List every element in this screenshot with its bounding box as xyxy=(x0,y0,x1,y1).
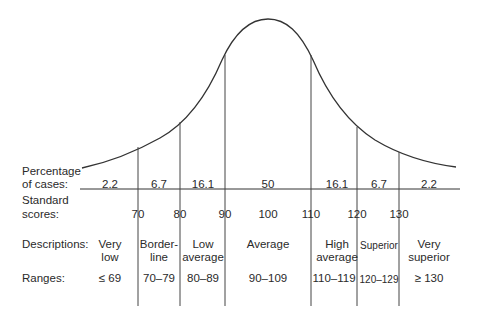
description-line1: Very xyxy=(98,238,121,251)
percentage-value: 50 xyxy=(262,178,275,191)
label-descriptions: Descriptions: xyxy=(22,238,88,251)
description-line2: superior xyxy=(408,251,450,264)
description-line2: low xyxy=(101,251,118,264)
score-value: 120 xyxy=(347,208,366,221)
normal-distribution-diagram xyxy=(0,0,477,324)
label-ranges: Ranges: xyxy=(22,272,65,285)
label-standard-line1: Standard xyxy=(22,194,69,207)
range-value: 120–129 xyxy=(360,273,399,286)
range-value: 110–119 xyxy=(312,272,355,285)
description-line1: Border- xyxy=(140,238,178,251)
score-value: 90 xyxy=(219,208,232,221)
label-standard-line2: scores: xyxy=(22,208,59,221)
percentage-value: 6.7 xyxy=(371,178,387,191)
description-line2: average xyxy=(316,251,358,264)
range-value: ≤ 69 xyxy=(99,272,121,285)
description-line1: Average xyxy=(247,238,290,251)
description-line2: line xyxy=(150,251,168,264)
bell-curve xyxy=(82,19,456,168)
label-percentage-line1: Percentage xyxy=(22,165,81,178)
description-line2: average xyxy=(182,251,224,264)
score-value: 110 xyxy=(302,208,320,221)
score-value: 100 xyxy=(258,208,277,221)
range-value: 90–109 xyxy=(249,272,287,285)
description-line1: High xyxy=(325,238,349,251)
description-line1: Very xyxy=(417,238,440,251)
range-value: 80–89 xyxy=(187,272,219,285)
score-value: 70 xyxy=(132,208,145,221)
description-line1: Low xyxy=(192,238,213,251)
percentage-value: 2.2 xyxy=(421,178,437,191)
label-percentage-line2: of cases: xyxy=(22,178,68,191)
percentage-value: 2.2 xyxy=(102,178,118,191)
percentage-value: 16.1 xyxy=(192,178,214,191)
percentage-value: 6.7 xyxy=(151,178,167,191)
score-value: 80 xyxy=(174,208,187,221)
percentage-value: 16.1 xyxy=(326,178,348,191)
description-line1: Superior xyxy=(360,239,398,252)
range-value: 70–79 xyxy=(143,272,175,285)
range-value: ≥ 130 xyxy=(415,272,444,285)
score-value: 130 xyxy=(389,208,408,221)
